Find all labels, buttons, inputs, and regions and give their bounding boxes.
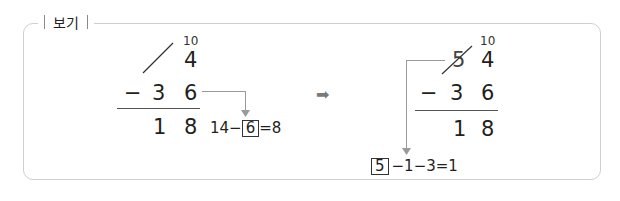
connector-vertical [406, 60, 407, 150]
carry-ten: 10 [480, 35, 495, 47]
right-equation: 5−1−3=1 [371, 158, 458, 175]
strike-slash-icon [440, 44, 474, 76]
example-label: 보기 [38, 12, 94, 32]
arrow-down-icon [241, 110, 250, 117]
minus-sign: − [124, 83, 142, 104]
left-equation: 14−6=8 [210, 120, 281, 137]
result-ones-digit: 8 [184, 117, 197, 138]
sub-tens-digit: 3 [450, 83, 463, 104]
eq-prefix: 14− [210, 119, 242, 137]
top-ones-digit: 4 [184, 50, 197, 71]
sum-line [415, 110, 498, 111]
strike-slash-icon [140, 40, 176, 76]
sum-line [117, 108, 200, 109]
result-ones-digit: 8 [481, 119, 494, 140]
result-tens-digit: 1 [453, 119, 466, 140]
eq-boxed-digit: 5 [371, 158, 389, 175]
label-divider-right [87, 15, 88, 29]
connector-vertical [245, 91, 246, 111]
carry-ten: 10 [183, 35, 198, 47]
sub-tens-digit: 3 [152, 83, 165, 104]
example-box [23, 23, 601, 180]
connector-horizontal [202, 91, 246, 92]
eq-suffix: −1−3=1 [392, 157, 458, 175]
eq-suffix: =8 [259, 119, 281, 137]
eq-boxed-digit: 6 [242, 120, 260, 137]
minus-sign: − [420, 83, 438, 104]
connector-horizontal [406, 60, 445, 61]
result-tens-digit: 1 [153, 117, 166, 138]
sub-ones-digit: 6 [184, 83, 197, 104]
sub-ones-digit: 6 [481, 83, 494, 104]
label-text: 보기 [45, 12, 87, 32]
right-arrow-icon: ➡ [316, 85, 329, 104]
top-ones-digit: 4 [481, 50, 494, 71]
arrow-down-icon [402, 148, 411, 155]
